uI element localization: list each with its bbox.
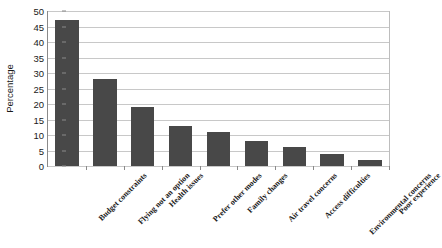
gridline: [48, 73, 389, 74]
y-tick-label: 45: [22, 21, 44, 32]
x-tick-mark: [313, 166, 314, 170]
y-tick-label: 25: [22, 83, 44, 94]
y-tick-mark: [62, 119, 66, 120]
x-tick-mark: [200, 166, 201, 170]
bar: [207, 132, 230, 166]
y-tick-label: 40: [22, 37, 44, 48]
y-tick-label: 0: [22, 161, 44, 172]
y-tick-label: 10: [22, 130, 44, 141]
y-tick-mark: [62, 150, 66, 151]
x-category-label: Environmental concerns: [368, 171, 434, 237]
gridline: [48, 42, 389, 43]
y-tick-label: 35: [22, 52, 44, 63]
y-tick-label: 50: [22, 6, 44, 17]
gridline: [48, 58, 389, 59]
y-tick-label: 20: [22, 99, 44, 110]
y-tick-label: 5: [22, 145, 44, 156]
y-tick-mark: [62, 26, 66, 27]
plot-area: [47, 11, 390, 167]
y-tick-mark: [62, 135, 66, 136]
y-tick-label: 15: [22, 114, 44, 125]
y-tick-mark: [62, 166, 66, 167]
x-tick-mark: [389, 166, 390, 170]
x-tick-mark: [86, 166, 87, 170]
bar: [358, 160, 381, 166]
gridline: [48, 11, 389, 12]
bar: [169, 126, 192, 166]
bar: [320, 154, 343, 166]
y-tick-mark: [62, 88, 66, 89]
x-tick-mark: [351, 166, 352, 170]
y-tick-mark: [62, 104, 66, 105]
gridline: [48, 166, 389, 167]
y-tick-mark: [62, 11, 66, 12]
bar: [131, 107, 154, 166]
x-tick-mark: [237, 166, 238, 170]
x-tick-mark: [124, 166, 125, 170]
gridline: [48, 27, 389, 28]
x-tick-mark: [162, 166, 163, 170]
y-tick-mark: [62, 73, 66, 74]
bar: [55, 20, 78, 166]
bar: [93, 79, 116, 166]
y-axis-title-text: Percentage: [4, 64, 15, 113]
y-axis-title: Percentage: [0, 0, 18, 176]
x-tick-mark: [275, 166, 276, 170]
y-tick-mark: [62, 57, 66, 58]
bar: [283, 147, 306, 166]
bar: [245, 141, 268, 166]
y-tick-mark: [62, 42, 66, 43]
y-tick-label: 30: [22, 68, 44, 79]
